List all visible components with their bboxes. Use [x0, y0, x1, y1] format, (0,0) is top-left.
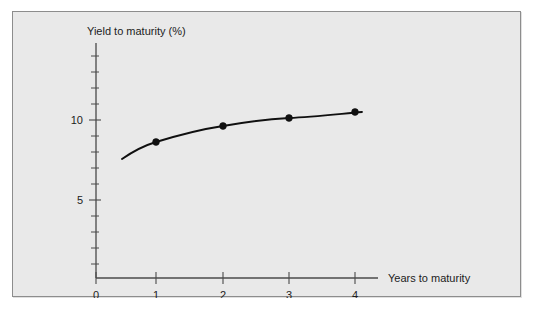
y-axis-title: Yield to maturity (%) — [87, 25, 186, 37]
x-tick-label-2: 2 — [220, 289, 226, 298]
x-axis-title: Years to maturity — [388, 272, 471, 284]
data-point-1 — [153, 139, 160, 146]
x-tick-label-4: 4 — [352, 289, 358, 298]
x-tick-label-0: 0 — [93, 289, 99, 298]
yield-curve-chart: 10 5 0 1 2 3 4 Yield to maturity (%) Yea… — [13, 12, 522, 298]
chart-figure-frame: 10 5 0 1 2 3 4 Yield to maturity (%) Yea… — [12, 11, 521, 297]
data-point-3 — [286, 115, 293, 122]
yield-curve-path — [122, 112, 362, 159]
x-tick-label-3: 3 — [286, 289, 292, 298]
y-tick-label-5: 5 — [77, 194, 83, 206]
data-point-4 — [352, 109, 359, 116]
data-point-2 — [220, 123, 227, 130]
y-tick-label-10: 10 — [71, 114, 83, 126]
x-tick-label-1: 1 — [153, 289, 159, 298]
